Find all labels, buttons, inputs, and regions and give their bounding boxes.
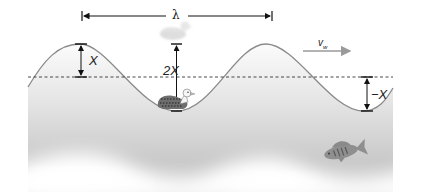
- wave-diagram: λ X 2X −X vw: [0, 0, 447, 192]
- wavelength-label: λ: [172, 9, 180, 21]
- amplitude-trough-label: −X: [371, 88, 387, 101]
- wave-velocity-label: vw: [318, 38, 327, 50]
- wave-velocity-subscript: w: [323, 44, 327, 50]
- duck-at-crest: [160, 22, 193, 41]
- amplitude-crest-label: X: [89, 54, 98, 67]
- water-body: [10, 44, 440, 192]
- crest-to-trough-label: 2X: [163, 64, 179, 77]
